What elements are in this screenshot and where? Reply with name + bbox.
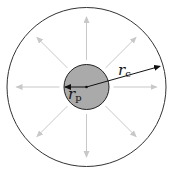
center-dot bbox=[85, 86, 88, 89]
rp-subscript: p bbox=[75, 92, 81, 103]
particle-cell-diagram: rc rp bbox=[0, 0, 172, 176]
rc-subscript: c bbox=[125, 68, 131, 79]
